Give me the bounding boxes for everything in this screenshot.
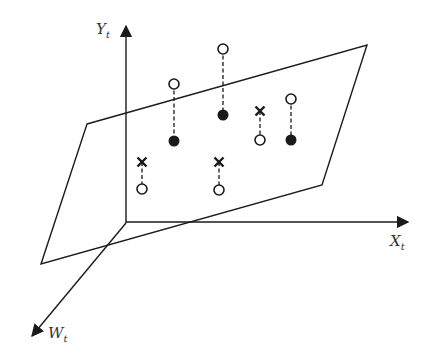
regression-plane-diagram bbox=[0, 0, 434, 361]
observed-point-open-circle bbox=[255, 135, 265, 145]
x-axis-label: Xt bbox=[390, 232, 405, 252]
w-axis-label: Wt bbox=[48, 324, 67, 344]
point-pair bbox=[137, 158, 147, 195]
point-pair bbox=[214, 158, 224, 196]
w-axis bbox=[32, 223, 126, 336]
fitted-point-filled-circle bbox=[169, 136, 180, 147]
data-points bbox=[137, 44, 297, 195]
observed-point-open-circle bbox=[286, 94, 296, 104]
point-pair bbox=[255, 107, 265, 146]
observed-point-open-circle bbox=[214, 185, 224, 195]
fitted-point-filled-circle bbox=[286, 135, 297, 146]
fitted-point-filled-circle bbox=[218, 110, 229, 121]
observed-point-open-circle bbox=[137, 184, 147, 194]
point-pair bbox=[286, 94, 297, 146]
observed-point-open-circle bbox=[169, 79, 179, 89]
observed-point-open-circle bbox=[218, 44, 228, 54]
point-pair bbox=[218, 44, 229, 121]
y-axis-label: Yt bbox=[96, 20, 110, 40]
regression-plane bbox=[41, 45, 367, 264]
point-pair bbox=[169, 79, 180, 147]
